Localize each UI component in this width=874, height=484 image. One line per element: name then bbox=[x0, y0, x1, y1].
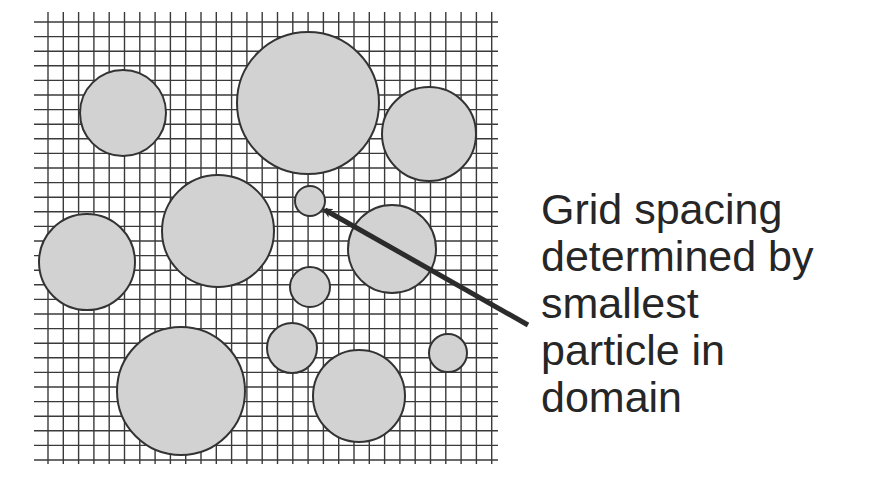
particles-group bbox=[39, 32, 476, 455]
particle-circle bbox=[290, 267, 330, 307]
particle-circle bbox=[429, 334, 467, 372]
caption-text: Grid spacing determined by smallest part… bbox=[541, 186, 814, 421]
particle-circle bbox=[267, 323, 317, 373]
particle-circle bbox=[162, 175, 274, 287]
caption-line-2: determined by bbox=[541, 233, 814, 280]
particle-circle bbox=[117, 327, 245, 455]
particle-circle bbox=[313, 350, 405, 442]
particle-circle bbox=[237, 32, 379, 174]
caption-line-1: Grid spacing bbox=[541, 186, 814, 233]
particle-circle bbox=[39, 214, 135, 310]
particle-circle bbox=[382, 87, 476, 181]
particle-circle bbox=[295, 186, 325, 216]
caption-line-4: particle in bbox=[541, 327, 814, 374]
caption-line-3: smallest bbox=[541, 280, 814, 327]
particle-circle bbox=[80, 70, 166, 156]
caption-line-5: domain bbox=[541, 374, 814, 421]
